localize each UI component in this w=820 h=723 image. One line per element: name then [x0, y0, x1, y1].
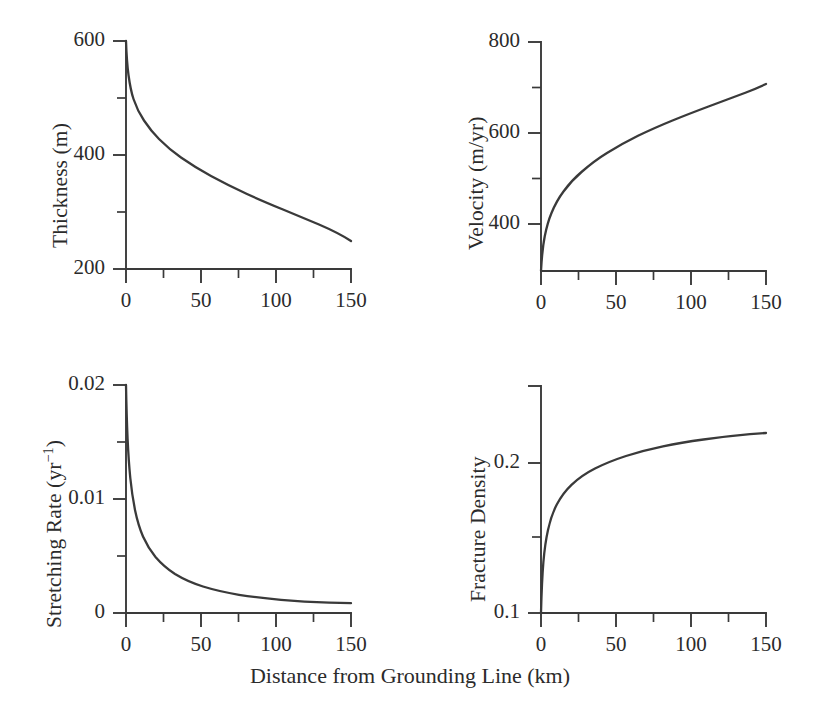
- panel-velocity: 800 600 400 0 50 100 150 Velocity (m/yr): [410, 0, 820, 340]
- stretching-xlabel-50: 50: [191, 632, 212, 656]
- stretching-xlabel-0: 0: [121, 632, 132, 656]
- shared-x-axis-title: Distance from Grounding Line (km): [0, 663, 820, 689]
- velocity-ylabel-400: 400: [489, 210, 521, 234]
- stretching-rate-curve: [126, 385, 351, 603]
- stretching-ylabel-0: 0: [95, 599, 106, 623]
- velocity-xlabel-50: 50: [606, 290, 627, 314]
- velocity-curve: [541, 84, 766, 271]
- thickness-xlabel-150: 150: [335, 288, 367, 312]
- stretching-xlabel-150: 150: [335, 632, 367, 656]
- velocity-y-axis-title: Velocity (m/yr): [464, 117, 489, 250]
- velocity-xlabel-100: 100: [675, 290, 707, 314]
- stretching-xlabel-100: 100: [260, 632, 292, 656]
- velocity-xlabel-150: 150: [750, 290, 782, 314]
- thickness-xlabel-100: 100: [260, 288, 292, 312]
- thickness-y-axis-title: Thickness (m): [48, 123, 73, 248]
- fracture-ylabel-02: 0.2: [494, 449, 520, 473]
- thickness-ylabel-600: 600: [74, 27, 106, 51]
- fracture-xlabel-50: 50: [606, 632, 627, 656]
- figure-four-panel-ice-shelf: 600 400 200 0 50 100 150 Thickness (m): [0, 0, 820, 723]
- thickness-ylabel-400: 400: [74, 141, 106, 165]
- velocity-ylabel-600: 600: [489, 119, 521, 143]
- thickness-ylabel-200: 200: [74, 255, 106, 279]
- fracture-xlabel-100: 100: [675, 632, 707, 656]
- fracture-xlabel-0: 0: [536, 632, 547, 656]
- thickness-curve: [126, 41, 351, 241]
- fracture-density-y-axis-title: Fracture Density: [466, 457, 491, 603]
- panel-thickness: 600 400 200 0 50 100 150 Thickness (m): [0, 0, 410, 340]
- stretching-ylabel-002: 0.02: [68, 371, 105, 395]
- velocity-xlabel-0: 0: [536, 290, 547, 314]
- stretching-title-close: ): [42, 440, 66, 447]
- stretching-rate-y-axis-title: Stretching Rate (yr−1): [42, 440, 67, 628]
- panel-stretching-rate: 0.02 0.01 0 0 50 100 150 Stretching Rate…: [0, 340, 410, 680]
- fracture-ylabel-01: 0.1: [494, 599, 520, 623]
- thickness-xlabel-50: 50: [191, 288, 212, 312]
- panel-fracture-density: 0.2 0.1 0 50 100 150 Fracture Density: [410, 340, 820, 680]
- stretching-ylabel-001: 0.01: [68, 485, 105, 509]
- fracture-xlabel-150: 150: [750, 632, 782, 656]
- stretching-title-main: Stretching Rate (yr: [42, 463, 66, 629]
- velocity-ylabel-800: 800: [489, 28, 521, 52]
- fracture-density-curve: [541, 433, 766, 613]
- stretching-title-exponent: −1: [40, 447, 56, 462]
- thickness-xlabel-0: 0: [121, 288, 132, 312]
